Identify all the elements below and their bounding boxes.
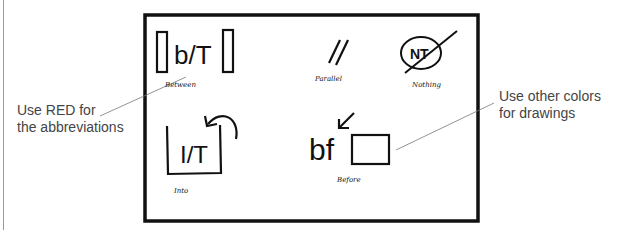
- label-between: Between: [165, 81, 196, 89]
- between-symbol: b/T: [157, 30, 233, 72]
- callout-right-line2: for drawings: [499, 105, 601, 122]
- callout-other-colors: Use other colors for drawings: [499, 88, 601, 122]
- svg-text:I/T: I/T: [180, 141, 208, 168]
- label-before: Before: [337, 176, 361, 184]
- svg-text:bf: bf: [309, 133, 335, 166]
- label-parallel: Parallel: [315, 75, 342, 83]
- label-into: Into: [174, 187, 188, 195]
- callout-left-line2: the abbreviations: [17, 119, 124, 136]
- svg-text:NT: NT: [410, 46, 429, 62]
- callout-red-abbreviations: Use RED for the abbreviations: [17, 102, 124, 136]
- svg-text:b/T: b/T: [174, 40, 212, 70]
- into-symbol: I/T: [167, 116, 237, 174]
- callout-right-line1: Use other colors: [499, 88, 601, 105]
- label-nothing: Nothing: [412, 81, 441, 89]
- before-symbol: bf: [309, 113, 389, 166]
- callout-left-line1: Use RED for: [17, 102, 124, 119]
- nothing-symbol: NT: [401, 31, 457, 73]
- parallel-symbol: [329, 40, 348, 65]
